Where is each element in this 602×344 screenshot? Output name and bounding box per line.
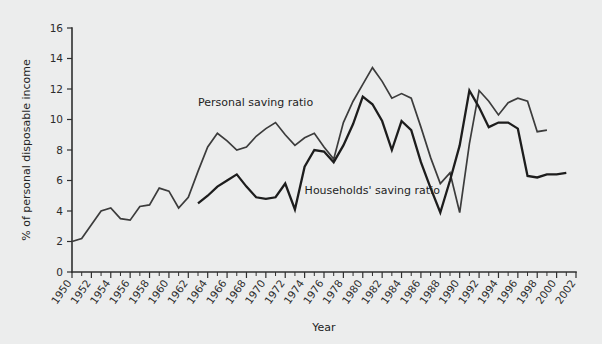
- y-tick-label: 2: [56, 235, 63, 247]
- x-axis-title: Year: [311, 321, 336, 334]
- series-annotations: Personal saving ratioHouseholds' saving …: [198, 96, 440, 197]
- y-axis-title: % of personal disposable income: [20, 59, 33, 241]
- x-axis-ticks: 1950195219541956195819601962196419661968…: [48, 272, 577, 306]
- chart-figure: 0246810121416 19501952195419561958196019…: [0, 0, 602, 344]
- y-tick-label: 8: [56, 144, 63, 156]
- series-line-personal-saving-ratio: [72, 68, 547, 242]
- series-lines: [72, 68, 566, 242]
- y-tick-label: 10: [50, 113, 63, 125]
- annotation-label-personal-saving-ratio: Personal saving ratio: [198, 96, 313, 109]
- x-tick-label: 2002: [552, 277, 577, 306]
- annotation-label-households-saving-ratio: Households' saving ratio: [305, 184, 441, 197]
- y-tick-label: 16: [50, 22, 64, 34]
- y-tick-label: 14: [50, 52, 64, 64]
- y-tick-label: 0: [56, 266, 63, 278]
- y-tick-label: 4: [56, 205, 63, 217]
- y-axis-ticks: 0246810121416: [50, 22, 72, 278]
- y-tick-label: 6: [56, 174, 63, 186]
- chart-canvas: 0246810121416 19501952195419561958196019…: [0, 0, 602, 344]
- y-tick-label: 12: [50, 83, 63, 95]
